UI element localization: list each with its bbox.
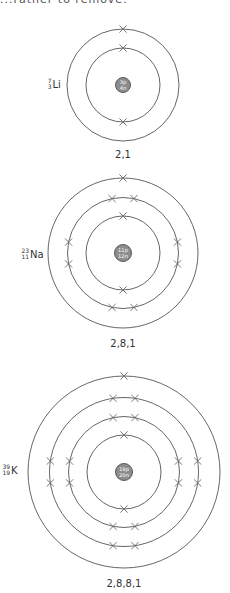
- atomic-number: 3: [48, 83, 52, 90]
- lithium-atom-diagram: 3p4n73Li2,1: [48, 25, 179, 160]
- nucleus-neutrons: 12n: [118, 253, 128, 259]
- element-symbol: Li: [52, 79, 60, 90]
- electron-configuration: 2,8,1: [110, 338, 135, 349]
- nucleus-neutrons: 4n: [120, 85, 127, 91]
- sodium-atom-diagram: 11p12n2311Na2,8,1: [22, 174, 198, 349]
- electron-configuration: 2,1: [115, 149, 131, 160]
- potassium-atom-diagram: 19p20n3919K2,8,8,1: [3, 372, 220, 589]
- atomic-number: 19: [3, 469, 11, 476]
- atomic-number: 11: [22, 253, 30, 260]
- element-symbol: K: [11, 465, 18, 476]
- electron-shell-diagrams: 3p4n73Li2,1 11p12n2311Na2,8,1 19p20n3919…: [0, 0, 230, 593]
- electron-configuration: 2,8,8,1: [107, 578, 142, 589]
- element-symbol: Na: [30, 249, 44, 260]
- nucleus-neutrons: 20n: [119, 472, 129, 478]
